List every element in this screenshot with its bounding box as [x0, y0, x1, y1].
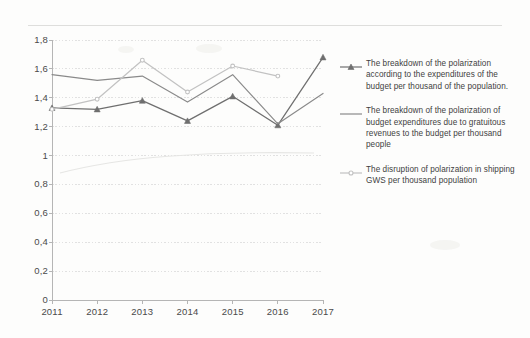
x-axis-tick-label: 2013 [131, 306, 153, 317]
y-axis-tick-label: 1,4 [14, 93, 48, 103]
y-axis-tick-label: 0,4 [14, 237, 48, 247]
legend-label: The breakdown of the polarization of bud… [366, 105, 524, 151]
scan-artifact-line [28, 25, 502, 26]
legend-item-1[interactable]: The breakdown of the polarization accord… [340, 58, 526, 92]
data-series-layer [52, 40, 323, 300]
x-axis-tick-label: 2012 [86, 306, 108, 317]
x-axis-tick-label: 2015 [222, 306, 244, 317]
y-axis-tick-label: 1,2 [14, 122, 48, 132]
legend-label: The disruption of polarization in shippi… [366, 164, 524, 187]
legend-label: The breakdown of the polarization accord… [366, 58, 524, 92]
legend-marker-dot-icon [340, 165, 362, 177]
y-axis-tick-label: 1 [14, 151, 48, 161]
legend-marker-triangle-icon [340, 59, 362, 71]
x-axis-tick-label: 2016 [267, 306, 289, 317]
scan-artifact-blotch [430, 240, 460, 250]
x-axis-tick-label: 2017 [312, 306, 334, 317]
legend-item-2[interactable]: The breakdown of the polarization of bud… [340, 105, 526, 151]
y-axis-tick-label: 1,6 [14, 64, 48, 74]
y-axis-tick-label: 0,8 [14, 179, 48, 189]
legend-marker-line-icon [340, 106, 362, 118]
x-axis-labels: 2011201220132014201520162017 [52, 306, 323, 322]
legend-item-3[interactable]: The disruption of polarization in shippi… [340, 164, 526, 187]
plot-area [52, 40, 323, 300]
chart-legend: The breakdown of the polarization accord… [340, 58, 526, 200]
x-axis-tick-label: 2011 [41, 306, 62, 317]
series-2 [52, 75, 323, 124]
chart-figure: 1,81,61,41,210,80,60,40,20 2011201220132… [0, 0, 530, 338]
x-axis-tick-label: 2014 [177, 306, 199, 317]
y-axis-tick-label: 0,6 [14, 208, 48, 218]
series-3 [50, 58, 280, 111]
y-axis-tick-label: 0,2 [14, 266, 48, 276]
y-axis-tick-label: 0 [14, 295, 48, 305]
y-axis-tick-label: 1,8 [14, 35, 48, 45]
y-axis-labels: 1,81,61,41,210,80,60,40,20 [8, 40, 48, 300]
